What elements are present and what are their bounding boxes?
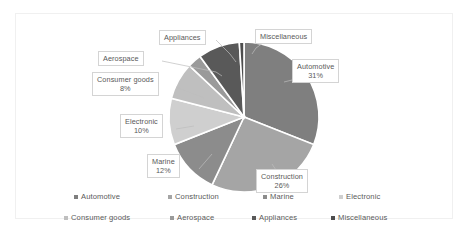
legend-swatch-icon-appliances (252, 216, 256, 220)
legend-item-appliances[interactable]: Appliances (252, 213, 297, 222)
callout-electronic[interactable]: Electronic 10% (120, 114, 163, 138)
legend-item-miscellaneous[interactable]: Miscellaneous (331, 213, 387, 222)
chart-legend[interactable]: Automotive Construction Marine Electroni… (64, 192, 414, 222)
legend-item-electronic[interactable]: Electronic (339, 192, 380, 201)
legend-swatch-icon-aerospace (170, 216, 174, 220)
legend-label-appliances: Appliances (259, 213, 297, 222)
legend-label-aerospace: Aerospace (177, 213, 214, 222)
callout-consumer-goods[interactable]: Consumer goods 8% (92, 72, 159, 96)
legend-swatch-icon-marine (263, 195, 267, 199)
callout-electronic-label: Electronic (125, 117, 158, 126)
legend-item-aerospace[interactable]: Aerospace (170, 213, 214, 222)
callout-marine-value: 12% (152, 166, 175, 175)
callout-marine[interactable]: Marine 12% (147, 154, 180, 178)
legend-row-1: Automotive Construction Marine Electroni… (64, 192, 414, 207)
legend-label-marine: Marine (270, 192, 294, 201)
legend-swatch-icon-construction (168, 195, 172, 199)
legend-item-construction[interactable]: Construction (168, 192, 219, 201)
callout-marine-label: Marine (152, 157, 175, 166)
callout-consumer-goods-value: 8% (97, 84, 154, 93)
callout-miscellaneous-label: Miscellaneous (260, 32, 307, 41)
callout-construction-value: 26% (261, 181, 303, 190)
callout-automotive-value: 31% (297, 71, 334, 80)
legend-item-automotive[interactable]: Automotive (74, 192, 120, 201)
legend-swatch-icon-electronic (339, 195, 343, 199)
pie-chart-plot-area[interactable]: Automotive 31% Construction 26% Marine 1… (16, 14, 454, 220)
callout-appliances[interactable]: Appliances (159, 30, 206, 45)
legend-label-consumer-goods: Consumer goods (71, 213, 130, 222)
callout-construction[interactable]: Construction 26% (256, 169, 308, 193)
callout-aerospace-label: Aerospace (103, 54, 139, 63)
chart-frame: Automotive 31% Construction 26% Marine 1… (15, 13, 453, 219)
legend-item-consumer-goods[interactable]: Consumer goods (64, 213, 130, 222)
legend-label-automotive: Automotive (81, 192, 120, 201)
legend-swatch-icon-automotive (74, 195, 78, 199)
callout-consumer-goods-label: Consumer goods (97, 75, 154, 84)
callout-miscellaneous[interactable]: Miscellaneous (255, 29, 312, 44)
legend-swatch-icon-miscellaneous (331, 216, 335, 220)
legend-row-2: Consumer goods Aerospace Appliances Misc… (64, 213, 414, 228)
callout-aerospace[interactable]: Aerospace (98, 51, 144, 66)
legend-swatch-icon-consumer-goods (64, 216, 68, 220)
callout-electronic-value: 10% (125, 126, 158, 135)
pie-chart-svg[interactable] (16, 14, 454, 220)
legend-label-construction: Construction (175, 192, 219, 201)
callout-appliances-label: Appliances (164, 33, 201, 42)
legend-label-miscellaneous: Miscellaneous (338, 213, 387, 222)
callout-automotive-label: Automotive (297, 62, 334, 71)
legend-label-electronic: Electronic (346, 192, 380, 201)
callout-automotive[interactable]: Automotive 31% (292, 59, 339, 83)
callout-construction-label: Construction (261, 172, 303, 181)
legend-item-marine[interactable]: Marine (263, 192, 294, 201)
